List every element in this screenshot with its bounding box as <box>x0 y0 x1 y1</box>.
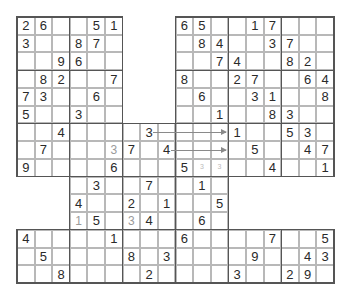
sudoku-cell[interactable]: 6 <box>105 159 123 177</box>
sudoku-cell[interactable]: 3 <box>281 106 299 124</box>
sudoku-cell[interactable] <box>264 52 282 70</box>
sudoku-cell[interactable]: 3 <box>228 265 246 283</box>
sudoku-cell[interactable] <box>105 177 123 195</box>
sudoku-cell[interactable] <box>105 35 123 53</box>
sudoku-cell[interactable] <box>264 70 282 88</box>
sudoku-cell[interactable] <box>35 35 53 53</box>
sudoku-cell[interactable] <box>70 141 88 159</box>
sudoku-cell[interactable]: 3 <box>316 248 334 266</box>
sudoku-cell[interactable]: 5 <box>193 17 211 35</box>
sudoku-cell[interactable]: 3 <box>87 177 105 195</box>
sudoku-cell[interactable] <box>228 88 246 106</box>
sudoku-cell[interactable]: 7 <box>35 141 53 159</box>
sudoku-cell[interactable]: 8 <box>264 106 282 124</box>
sudoku-cell-pencil[interactable]: 3 <box>105 141 123 159</box>
sudoku-cell[interactable] <box>105 52 123 70</box>
sudoku-cell[interactable] <box>246 230 264 248</box>
sudoku-cell[interactable] <box>264 265 282 283</box>
sudoku-cell[interactable] <box>193 52 211 70</box>
sudoku-cell[interactable]: 4 <box>70 194 88 212</box>
sudoku-cell[interactable] <box>228 141 246 159</box>
sudoku-cell[interactable] <box>105 194 123 212</box>
sudoku-cell[interactable]: 3 <box>299 123 317 141</box>
sudoku-cell[interactable] <box>52 88 70 106</box>
sudoku-cell[interactable]: 2 <box>299 52 317 70</box>
sudoku-cell[interactable] <box>123 159 141 177</box>
sudoku-cell[interactable] <box>105 88 123 106</box>
sudoku-cell[interactable] <box>193 70 211 88</box>
sudoku-cell[interactable] <box>246 265 264 283</box>
sudoku-cell[interactable] <box>228 35 246 53</box>
sudoku-cell[interactable] <box>176 177 194 195</box>
sudoku-cell[interactable] <box>246 123 264 141</box>
sudoku-cell[interactable]: 2 <box>123 194 141 212</box>
sudoku-cell[interactable] <box>264 248 282 266</box>
sudoku-cell[interactable] <box>35 123 53 141</box>
sudoku-cell[interactable] <box>105 123 123 141</box>
sudoku-cell[interactable]: 7 <box>264 17 282 35</box>
sudoku-cell[interactable] <box>52 141 70 159</box>
sudoku-cell[interactable] <box>211 265 229 283</box>
sudoku-cell[interactable]: 6 <box>193 88 211 106</box>
sudoku-cell[interactable]: 4 <box>17 230 35 248</box>
sudoku-cell[interactable]: 3 <box>158 248 176 266</box>
sudoku-cell[interactable]: 7 <box>264 230 282 248</box>
sudoku-cell[interactable]: 1 <box>105 17 123 35</box>
sudoku-cell[interactable] <box>87 141 105 159</box>
sudoku-cell[interactable] <box>87 265 105 283</box>
sudoku-cell[interactable]: 3 <box>17 35 35 53</box>
sudoku-cell[interactable] <box>35 159 53 177</box>
sudoku-cell[interactable]: 6 <box>299 70 317 88</box>
sudoku-cell[interactable] <box>87 230 105 248</box>
sudoku-cell[interactable] <box>246 35 264 53</box>
sudoku-cell[interactable] <box>228 248 246 266</box>
sudoku-cell[interactable]: 7 <box>105 70 123 88</box>
sudoku-cell[interactable]: 1 <box>246 17 264 35</box>
sudoku-cell[interactable]: 7 <box>211 52 229 70</box>
sudoku-cell[interactable]: 9 <box>17 159 35 177</box>
sudoku-cell[interactable]: 2 <box>228 70 246 88</box>
sudoku-cell[interactable] <box>281 159 299 177</box>
sudoku-cell[interactable] <box>299 88 317 106</box>
sudoku-cell[interactable] <box>299 230 317 248</box>
sudoku-cell[interactable]: 7 <box>17 88 35 106</box>
sudoku-cell[interactable] <box>70 70 88 88</box>
sudoku-cell[interactable] <box>17 265 35 283</box>
sudoku-cell[interactable] <box>123 265 141 283</box>
sudoku-cell-candidate[interactable]: 3 <box>193 159 211 177</box>
sudoku-cell-pencil[interactable]: 1 <box>70 212 88 230</box>
sudoku-cell[interactable]: 4 <box>211 35 229 53</box>
sudoku-cell[interactable] <box>246 159 264 177</box>
sudoku-cell[interactable]: 1 <box>158 194 176 212</box>
sudoku-cell[interactable]: 1 <box>193 177 211 195</box>
sudoku-cell[interactable] <box>17 248 35 266</box>
sudoku-cell[interactable]: 4 <box>140 212 158 230</box>
sudoku-cell[interactable]: 5 <box>87 17 105 35</box>
sudoku-cell[interactable] <box>316 106 334 124</box>
sudoku-cell[interactable] <box>140 141 158 159</box>
sudoku-cell[interactable] <box>105 106 123 124</box>
sudoku-cell[interactable] <box>17 123 35 141</box>
sudoku-cell[interactable]: 2 <box>281 265 299 283</box>
sudoku-cell[interactable] <box>281 88 299 106</box>
sudoku-cell[interactable]: 1 <box>211 106 229 124</box>
sudoku-cell[interactable]: 5 <box>176 159 194 177</box>
sudoku-cell[interactable] <box>70 159 88 177</box>
sudoku-cell[interactable] <box>105 265 123 283</box>
sudoku-cell-pencil[interactable]: 3 <box>123 212 141 230</box>
sudoku-cell[interactable] <box>193 248 211 266</box>
sudoku-cell[interactable] <box>140 194 158 212</box>
sudoku-cell[interactable] <box>35 230 53 248</box>
sudoku-cell[interactable] <box>176 52 194 70</box>
sudoku-cell[interactable]: 8 <box>35 70 53 88</box>
sudoku-cell[interactable] <box>281 141 299 159</box>
sudoku-cell[interactable] <box>299 159 317 177</box>
sudoku-cell[interactable]: 8 <box>193 35 211 53</box>
sudoku-cell[interactable] <box>211 70 229 88</box>
sudoku-cell[interactable]: 6 <box>176 230 194 248</box>
sudoku-cell[interactable] <box>211 17 229 35</box>
sudoku-cell[interactable] <box>211 177 229 195</box>
sudoku-cell[interactable] <box>158 159 176 177</box>
sudoku-cell[interactable] <box>52 35 70 53</box>
sudoku-cell[interactable] <box>316 35 334 53</box>
